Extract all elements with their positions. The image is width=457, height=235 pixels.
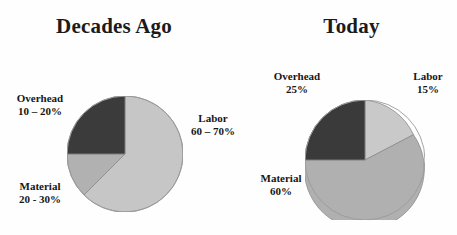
pie-label-overhead-name-decades-ago: Overhead xyxy=(4,92,76,105)
pie-label-overhead-value-decades-ago: 10 – 20% xyxy=(4,105,76,118)
chart-title-decades-ago: Decades Ago xyxy=(0,14,228,39)
pie-label-material-name-decades-ago: Material xyxy=(2,180,78,193)
pie-chart-decades-ago xyxy=(67,96,183,212)
pie-label-overhead-name-today: Overhead xyxy=(260,70,334,83)
chart-title-today: Today xyxy=(237,14,457,39)
pie-slice-overhead-today xyxy=(305,100,365,160)
pie-label-labor-name-today: Labor xyxy=(402,70,454,83)
pie-label-material-decades-ago: Material 20 - 30% xyxy=(2,180,78,207)
pie-chart-figure: Decades Ago Overhead 10 – 20% Labor 60 –… xyxy=(0,0,457,235)
pie-label-overhead-decades-ago: Overhead 10 – 20% xyxy=(4,92,76,119)
chart-panel-decades-ago: Decades Ago Overhead 10 – 20% Labor 60 –… xyxy=(0,0,228,235)
pie-label-labor-today: Labor 15% xyxy=(402,70,454,97)
pie-label-material-name-today: Material xyxy=(244,172,318,185)
pie-label-material-today: Material 60% xyxy=(244,172,318,199)
pie-label-labor-value-today: 15% xyxy=(402,83,454,96)
pie-label-overhead-today: Overhead 25% xyxy=(260,70,334,97)
pie-chart-today xyxy=(305,100,425,220)
pie-label-material-value-decades-ago: 20 - 30% xyxy=(2,193,78,206)
pie-label-material-value-today: 60% xyxy=(244,185,318,198)
pie-label-overhead-value-today: 25% xyxy=(260,83,334,96)
pie-svg-today xyxy=(305,100,425,220)
pie-svg-decades-ago xyxy=(67,96,183,212)
